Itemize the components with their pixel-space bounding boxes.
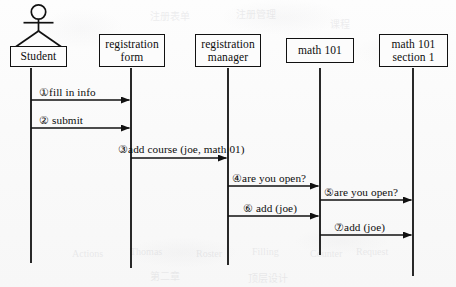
message-arrows-group: [31, 100, 412, 235]
participant-label-student: Student: [21, 50, 57, 63]
sequence-diagram-canvas: 注册表单注册管理课程ActionsThomasRosterFillingCoun…: [0, 0, 456, 287]
participant-label-registration-manager: registration: [201, 38, 255, 51]
actor-head-icon: [31, 5, 45, 19]
participant-label-math-101: math 101: [298, 44, 342, 57]
message-label-6[interactable]: ⑥ add (joe): [243, 202, 297, 215]
participant-box-math-101-section-1[interactable]: math 101section 1: [379, 34, 448, 67]
stick-figure-student: [14, 5, 63, 48]
actor-stick-figures: [14, 5, 63, 48]
participant-label-registration-form: form: [121, 51, 144, 64]
participant-label-math-101-section-1: math 101: [392, 38, 436, 51]
participant-box-student[interactable]: Student: [10, 46, 67, 67]
participant-box-registration-manager[interactable]: registrationmanager: [195, 34, 261, 67]
message-label-7[interactable]: ⑦add (joe): [334, 221, 385, 234]
message-label-5[interactable]: ⑤are you open?: [324, 186, 398, 199]
participant-label-registration-manager: manager: [208, 51, 248, 64]
message-label-4[interactable]: ④are you open?: [232, 172, 306, 185]
participant-box-math-101[interactable]: math 101: [286, 38, 354, 63]
message-label-2[interactable]: ② submit: [39, 114, 83, 127]
participant-label-registration-form: registration: [105, 38, 159, 51]
participant-label-math-101-section-1: section 1: [392, 51, 434, 64]
message-label-1[interactable]: ①fill in info: [39, 86, 96, 99]
participant-box-registration-form[interactable]: registrationform: [99, 34, 165, 67]
lifelines-group: [31, 68, 413, 276]
message-label-3[interactable]: ③add course (joe, math 01): [118, 143, 245, 156]
